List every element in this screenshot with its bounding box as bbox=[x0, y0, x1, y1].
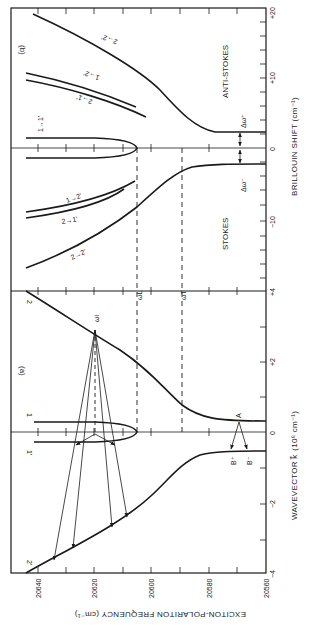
panel-a-axis-title: WAVEVECTOR k⃗ (10⁶ cm⁻¹) bbox=[289, 411, 299, 520]
point-Bplus-label: B⁺ bbox=[230, 456, 237, 465]
panel-a-label: (a) bbox=[18, 366, 27, 376]
branch-2-label: 2 bbox=[26, 300, 33, 304]
point-Bminus-label: B⁻ bbox=[246, 456, 253, 465]
panel-b-axis-title: BRILLOUIN SHIFT (cm⁻¹) bbox=[290, 97, 299, 196]
delta-omega-minus-label: Δω⁻ bbox=[240, 178, 247, 192]
delta-omega-plus-label: Δω⁺ bbox=[240, 114, 247, 128]
panel-b-label: (b) bbox=[18, 45, 27, 55]
svg-text:20580: 20580 bbox=[206, 578, 213, 598]
svg-text:−4: −4 bbox=[269, 570, 276, 578]
svg-text:−2: −2 bbox=[269, 500, 276, 508]
svg-text:+4: +4 bbox=[269, 288, 276, 296]
polariton-brillouin-figure: (b) (a) ANTI-STOKES STOKES 2→2' 1→2' 2→1… bbox=[0, 0, 312, 625]
shift-tick-labels: −10 0 +10 +20 bbox=[269, 7, 276, 228]
svg-text:20620: 20620 bbox=[91, 578, 98, 598]
svg-text:0: 0 bbox=[269, 147, 276, 151]
frequency-tick-labels: 20640 20620 20600 20580 20560 bbox=[35, 578, 270, 598]
omega-i-label: ωi bbox=[93, 315, 100, 322]
right-axis-ticks bbox=[260, 22, 266, 540]
x-axis-title: EXCITON-POLARITON FREQUENCY (cm⁻¹) bbox=[74, 610, 246, 619]
svg-text:+2: +2 bbox=[269, 358, 276, 366]
branch-1-label: 1 bbox=[26, 413, 33, 417]
svg-text:+20: +20 bbox=[269, 7, 276, 19]
transition-2-2p-stokes: 2→2' bbox=[69, 248, 87, 261]
panel-b-curves bbox=[26, 14, 266, 268]
point-A-label: A bbox=[235, 413, 242, 418]
svg-text:20600: 20600 bbox=[148, 578, 155, 598]
k-tick-labels: −4 −2 0 +2 +4 bbox=[269, 288, 276, 578]
branch-1p-label: 1' bbox=[26, 450, 33, 455]
omega-L-label: ωL bbox=[136, 291, 143, 300]
stokes-label: STOKES bbox=[221, 218, 230, 250]
svg-text:20560: 20560 bbox=[263, 578, 270, 598]
svg-text:+10: +10 bbox=[269, 72, 276, 84]
branch-2p-label: 2' bbox=[26, 560, 33, 565]
svg-text:20640: 20640 bbox=[35, 578, 42, 598]
transition-1-2p-anti-stokes: 1→2' bbox=[83, 70, 101, 82]
anti-stokes-label: ANTI-STOKES bbox=[221, 45, 230, 98]
svg-text:−10: −10 bbox=[269, 216, 276, 228]
transition-2-2p-anti-stokes: 2→2' bbox=[101, 34, 119, 46]
scattering-arrows bbox=[54, 330, 247, 560]
transition-1-1p: 1→1' bbox=[37, 116, 44, 132]
omega-T-label: ωT bbox=[180, 290, 187, 300]
svg-text:0: 0 bbox=[269, 431, 276, 435]
transition-2-1p-stokes: 2→1' bbox=[61, 215, 78, 225]
